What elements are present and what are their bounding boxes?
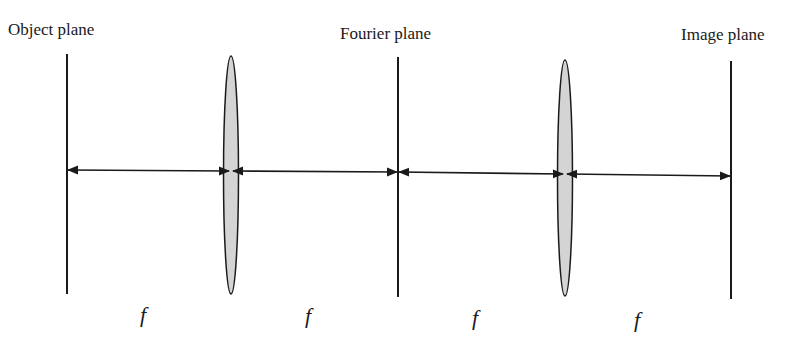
image-plane-label: Image plane <box>681 25 765 44</box>
fourier-plane-label: Fourier plane <box>340 24 431 43</box>
distance-arrow-4 <box>567 174 730 176</box>
distance-arrow-3 <box>399 172 563 174</box>
lens-2-icon <box>558 60 573 296</box>
lens-1-icon <box>224 56 239 294</box>
focal-length-label-4: f <box>634 307 643 332</box>
object-plane-label: Object plane <box>8 20 94 39</box>
4f-system-diagram: Object plane Fourier plane Image plane f… <box>0 0 808 344</box>
focal-length-label-2: f <box>305 303 314 328</box>
focal-length-label-3: f <box>472 305 481 330</box>
distance-arrow-2 <box>233 171 397 172</box>
distance-arrow-1 <box>68 170 229 171</box>
focal-length-label-1: f <box>140 302 149 327</box>
